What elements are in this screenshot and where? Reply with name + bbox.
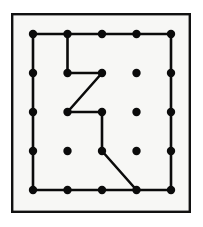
dot-r1c5 [167,30,175,38]
geoboard-canvas [0,0,203,227]
dot-r3c3 [98,108,106,116]
dot-r3c1 [29,108,37,116]
dot-r1c1 [29,30,37,38]
dot-r2c5 [167,69,175,77]
dot-r2c3 [98,69,106,77]
dot-r1c3 [98,30,106,38]
dot-r4c1 [29,147,37,155]
dot-r5c4 [132,186,140,194]
geoboard-figure [0,0,203,227]
dot-r4c4 [132,147,140,155]
dot-r5c3 [98,186,106,194]
dot-r2c1 [29,69,37,77]
dot-r3c4 [132,108,140,116]
dot-r3c5 [167,108,175,116]
dot-r1c2 [63,30,71,38]
dot-r2c2 [63,69,71,77]
dot-r3c2 [63,108,71,116]
dot-r4c5 [167,147,175,155]
dot-r4c2 [63,147,71,155]
dot-r5c5 [167,186,175,194]
dot-r5c2 [63,186,71,194]
dot-r4c3 [98,147,106,155]
dot-r5c1 [29,186,37,194]
dot-r1c4 [132,30,140,38]
dot-r2c4 [132,69,140,77]
